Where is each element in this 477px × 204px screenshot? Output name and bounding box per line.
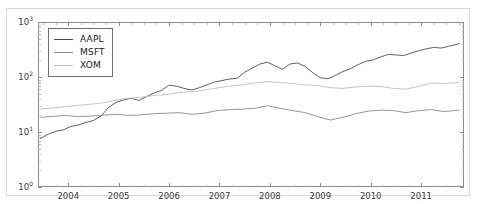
x-tick-minor [182,22,183,25]
y-tick-minor [462,94,465,95]
x-tick-major [320,183,321,187]
x-tick-minor [156,185,157,188]
x-tick-minor [446,22,447,25]
x-tick-minor [232,185,233,188]
legend-label: AAPL [80,35,104,44]
x-tick-minor [245,22,246,25]
y-tick-minor [462,115,465,116]
legend: AAPLMSFTXOM [48,28,113,77]
x-tick-minor [144,22,145,25]
y-tick-minor [462,141,465,142]
y-tick-major [38,77,42,78]
x-tick-minor [56,22,57,25]
y-tick-minor [38,149,41,150]
y-tick-minor [38,144,41,145]
y-tick-minor [38,115,41,116]
y-tick-minor [462,89,465,90]
y-tick-minor [38,106,41,107]
x-tick-minor [346,22,347,25]
x-tick-major [68,22,69,26]
y-tick-minor [38,31,41,32]
y-tick-minor [38,135,41,136]
y-tick-minor [38,86,41,87]
y-tick-major [460,77,464,78]
y-tick-minor [462,80,465,81]
x-tick-minor [446,185,447,188]
x-tick-minor [396,22,397,25]
y-tick-minor [38,60,41,61]
x-tick-minor [56,185,57,188]
x-tick-minor [257,185,258,188]
x-tick-major [371,22,372,26]
x-tick-minor [207,22,208,25]
x-tick-minor [283,22,284,25]
x-tick-minor [308,185,309,188]
x-tick-label: 2004 [57,192,79,201]
y-tick-minor [462,135,465,136]
x-tick-minor [459,22,460,25]
y-tick-minor [462,99,465,100]
x-tick-minor [358,22,359,25]
x-tick-minor [396,185,397,188]
y-tick-major [460,132,464,133]
legend-item-aapl[interactable]: AAPL [54,33,105,46]
x-tick-minor [295,22,296,25]
y-tick-minor [462,60,465,61]
x-tick-minor [459,185,460,188]
plot-area: 100101102103 200420052006200720082009201… [38,22,464,187]
y-tick-minor [38,89,41,90]
x-tick-major [169,183,170,187]
x-tick-minor [257,22,258,25]
x-tick-minor [194,185,195,188]
y-tick-minor [38,44,41,45]
x-tick-minor [43,185,44,188]
legend-item-xom[interactable]: XOM [54,59,105,72]
y-tick-minor [38,27,41,28]
chart-screenshot: 100101102103 200420052006200720082009201… [0,0,477,204]
y-tick-minor [38,25,41,26]
y-tick-minor [462,149,465,150]
y-tick-label: 103 [18,18,33,27]
x-tick-minor [93,22,94,25]
y-tick-minor [462,39,465,40]
y-tick-minor [38,39,41,40]
x-tick-label: 2010 [360,192,382,201]
x-tick-minor [93,185,94,188]
y-tick-minor [462,154,465,155]
y-tick-minor [38,170,41,171]
x-tick-major [219,183,220,187]
x-tick-minor [144,185,145,188]
x-tick-minor [383,185,384,188]
y-tick-minor [38,161,41,162]
x-tick-minor [81,185,82,188]
x-tick-label: 2006 [158,192,180,201]
x-tick-minor [106,22,107,25]
x-tick-minor [194,22,195,25]
x-tick-minor [156,22,157,25]
legend-item-msft[interactable]: MSFT [54,46,105,59]
y-tick-minor [38,141,41,142]
x-tick-minor [43,22,44,25]
y-tick-minor [462,161,465,162]
y-tick-major [38,132,42,133]
y-tick-minor [38,154,41,155]
x-tick-minor [358,185,359,188]
y-tick-major [460,187,464,188]
legend-label: XOM [80,61,101,70]
x-tick-minor [383,22,384,25]
x-tick-minor [434,185,435,188]
y-tick-minor [38,137,41,138]
y-tick-minor [38,34,41,35]
series-line-xom [41,82,459,109]
x-tick-major [320,22,321,26]
x-tick-minor [333,185,334,188]
x-tick-minor [409,185,410,188]
x-tick-minor [106,185,107,188]
x-tick-label: 2009 [309,192,331,201]
x-tick-minor [409,22,410,25]
legend-line-icon [54,39,73,40]
x-tick-label: 2011 [410,192,432,201]
y-tick-minor [38,99,41,100]
y-tick-minor [462,44,465,45]
x-tick-minor [346,185,347,188]
